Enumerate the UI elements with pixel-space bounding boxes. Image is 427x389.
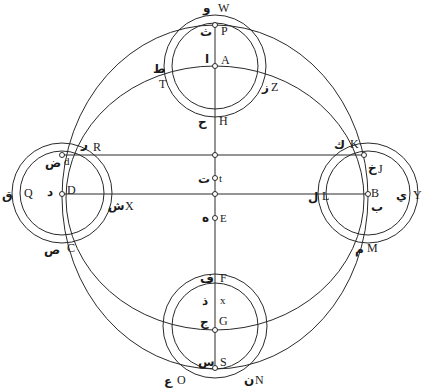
label-J: J bbox=[378, 162, 383, 176]
label-x: x bbox=[220, 294, 226, 306]
label-A-arabic: ا bbox=[205, 52, 209, 66]
label-G: G bbox=[219, 314, 228, 328]
label-P-arabic: ث bbox=[200, 25, 212, 39]
point-J bbox=[362, 153, 367, 158]
diagram-canvas: W P A T Z H R K d J t Q D X L B Y E C M … bbox=[0, 0, 427, 389]
label-J-arabic: خ bbox=[368, 161, 377, 175]
point-A bbox=[213, 64, 218, 69]
label-D-arabic: د bbox=[47, 185, 53, 199]
label-T: T bbox=[159, 77, 167, 91]
point-upper-center bbox=[213, 153, 218, 158]
point-D bbox=[60, 192, 65, 197]
label-R: R bbox=[93, 140, 101, 154]
label-Q: Q bbox=[24, 186, 33, 200]
label-H: H bbox=[219, 114, 228, 128]
label-Q-arabic: ق bbox=[2, 188, 13, 202]
label-S-arabic: س bbox=[198, 355, 215, 369]
label-K: K bbox=[350, 137, 359, 151]
label-B: B bbox=[371, 186, 379, 200]
label-H-arabic: ح bbox=[198, 115, 207, 129]
label-d: d bbox=[64, 155, 70, 167]
point-t bbox=[213, 176, 218, 181]
label-C-arabic: ص bbox=[44, 243, 60, 257]
label-X: X bbox=[125, 199, 134, 213]
label-F-arabic: ف bbox=[200, 272, 214, 286]
label-B-arabic: ب bbox=[371, 200, 383, 214]
label-A: A bbox=[221, 53, 230, 67]
point-lower-center bbox=[213, 192, 218, 197]
label-t: t bbox=[219, 172, 222, 184]
label-L-arabic: ل bbox=[308, 190, 318, 204]
label-d-arabic: ض bbox=[45, 156, 61, 170]
label-O-arabic: ع bbox=[164, 374, 173, 388]
label-X-arabic: ش bbox=[108, 199, 125, 213]
point-B bbox=[366, 192, 371, 197]
label-M: M bbox=[367, 241, 378, 255]
point-E bbox=[213, 216, 218, 221]
label-E-arabic: ه bbox=[202, 211, 209, 225]
label-C: C bbox=[67, 241, 75, 255]
geometric-diagram: W P A T Z H R K d J t Q D X L B Y E C M … bbox=[0, 0, 427, 389]
label-O: O bbox=[177, 373, 186, 387]
label-x-arabic: ذ bbox=[202, 294, 208, 308]
label-L: L bbox=[322, 189, 329, 203]
label-Y-arabic: ي bbox=[396, 188, 407, 202]
label-W: W bbox=[218, 1, 230, 15]
label-t-arabic: ت bbox=[198, 172, 210, 186]
label-Z: Z bbox=[271, 80, 278, 94]
label-Y: Y bbox=[413, 188, 422, 202]
label-Z-arabic: ز bbox=[261, 80, 269, 94]
point-P bbox=[213, 23, 218, 28]
label-P: P bbox=[221, 24, 228, 38]
label-N-arabic: ن bbox=[244, 373, 254, 387]
label-W-arabic: و bbox=[202, 1, 210, 16]
label-G-arabic: ج bbox=[200, 315, 209, 329]
label-D: D bbox=[67, 183, 76, 197]
label-R-arabic: ر bbox=[80, 137, 88, 151]
label-S: S bbox=[220, 355, 227, 369]
point-G bbox=[213, 328, 218, 333]
label-E: E bbox=[220, 212, 227, 224]
label-N: N bbox=[255, 373, 264, 387]
label-T-arabic: ط bbox=[153, 62, 165, 76]
label-F: F bbox=[220, 271, 227, 285]
label-K-arabic: ك bbox=[334, 138, 345, 152]
label-M-arabic: م bbox=[355, 242, 364, 257]
